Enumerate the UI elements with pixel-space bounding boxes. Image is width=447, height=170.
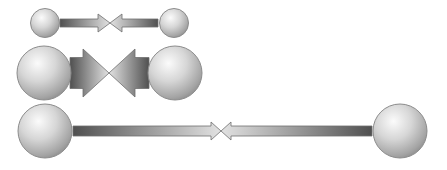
left-arrow-shape	[73, 122, 221, 140]
left-sphere	[31, 9, 60, 38]
right-arrow-shape	[110, 14, 158, 32]
right-sphere	[373, 104, 427, 158]
left-arrow-shape	[70, 49, 109, 97]
pairs-layer	[17, 9, 427, 159]
right-sphere	[160, 9, 189, 38]
small-pair	[31, 9, 189, 38]
sphere-bar-diagram	[0, 0, 447, 170]
right-arrow-shape	[221, 122, 372, 140]
long-pair	[18, 104, 427, 158]
right-arrow-shape	[109, 49, 149, 97]
medium-pair	[17, 46, 202, 100]
left-arrow-shape	[60, 14, 110, 32]
left-sphere	[17, 46, 71, 100]
left-sphere	[18, 104, 72, 158]
right-sphere	[148, 46, 202, 100]
